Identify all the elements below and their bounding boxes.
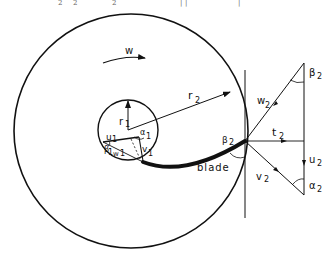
svg-text:1: 1: [148, 149, 153, 158]
svg-text:2: 2: [73, 0, 77, 7]
svg-text:|: |: [180, 0, 182, 7]
beta2-blade-sub: 2: [229, 138, 234, 147]
svg-text:u: u: [106, 132, 112, 142]
svg-text:1: 1: [146, 132, 151, 141]
svg-text:v: v: [256, 171, 262, 182]
svg-text:2: 2: [317, 159, 322, 168]
omega-label: w: [125, 45, 133, 56]
r2-radius-arrow: [128, 92, 230, 130]
svg-text:1: 1: [120, 149, 125, 158]
svg-text:α: α: [309, 180, 316, 191]
svg-text:2: 2: [279, 132, 284, 141]
svg-text:2: 2: [317, 185, 322, 194]
blade-label: blade: [197, 162, 230, 173]
svg-text:β: β: [309, 67, 315, 78]
svg-text:2: 2: [264, 175, 269, 184]
svg-text:2: 2: [317, 72, 322, 81]
svg-text:t: t: [272, 126, 277, 139]
svg-text:α: α: [140, 128, 145, 137]
impeller-diagram: 2 2 2 | | | w r 1 r 2 u 1 α 1 β 1 w 1 v …: [0, 0, 335, 255]
outlet-velocity-triangle: w 2 t 2 u 2 v 2 β 2 α 2: [245, 63, 322, 195]
beta2-blade-arc: [230, 153, 245, 158]
svg-text:2: 2: [112, 0, 116, 7]
svg-text:1: 1: [112, 135, 117, 144]
svg-text:u: u: [309, 154, 315, 165]
svg-text:|: |: [185, 0, 187, 7]
svg-text:2: 2: [265, 101, 270, 110]
svg-text:w: w: [113, 150, 119, 158]
r2-sub: 2: [195, 96, 200, 105]
truncated-top-text: 2 2 2 | | |: [58, 0, 240, 7]
u2-arrow-icon: [302, 160, 306, 166]
svg-text:|: |: [238, 0, 240, 7]
svg-text:2: 2: [58, 0, 62, 7]
svg-text:w: w: [257, 95, 265, 106]
r1-sub: 1: [125, 120, 130, 129]
beta2-blade-label: β: [222, 135, 228, 145]
r1-label: r: [119, 116, 124, 127]
inlet-velocity-triangle: u 1 α 1 β 1 w 1 v 1: [103, 128, 153, 162]
r2-label: r: [188, 89, 193, 102]
rotation-arrow-icon: [103, 57, 145, 63]
